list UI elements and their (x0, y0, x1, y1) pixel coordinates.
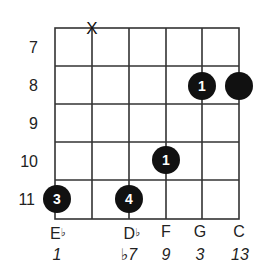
fret-label-10: 10 (8, 154, 38, 170)
note-label: C (233, 224, 245, 240)
muted-string-x-icon: X (86, 20, 97, 37)
note-label: E♭ (50, 224, 66, 242)
interval-label: ♭7 (121, 247, 137, 263)
finger-dot: 1 (152, 146, 180, 174)
interval-label: 3 (196, 247, 205, 263)
interval-label: 1 (53, 247, 62, 263)
interval-label: 13 (231, 247, 249, 263)
fret-label-8: 8 (8, 78, 38, 94)
finger-dot: 3 (43, 185, 71, 213)
fret-label-7: 7 (8, 40, 38, 56)
note-label: G (194, 224, 206, 240)
chord-diagram: 7 8 9 10 11 X 1 1 3 4 E♭ D♭ F G C 1 ♭7 9… (0, 0, 267, 280)
fret-label-11: 11 (5, 192, 35, 208)
fret-label-9: 9 (8, 116, 38, 132)
finger-dot (225, 72, 253, 100)
finger-dot: 1 (188, 72, 216, 100)
note-label: F (161, 224, 171, 240)
interval-label: 9 (162, 247, 171, 263)
note-label: D♭ (124, 224, 141, 242)
finger-dot: 4 (115, 185, 143, 213)
